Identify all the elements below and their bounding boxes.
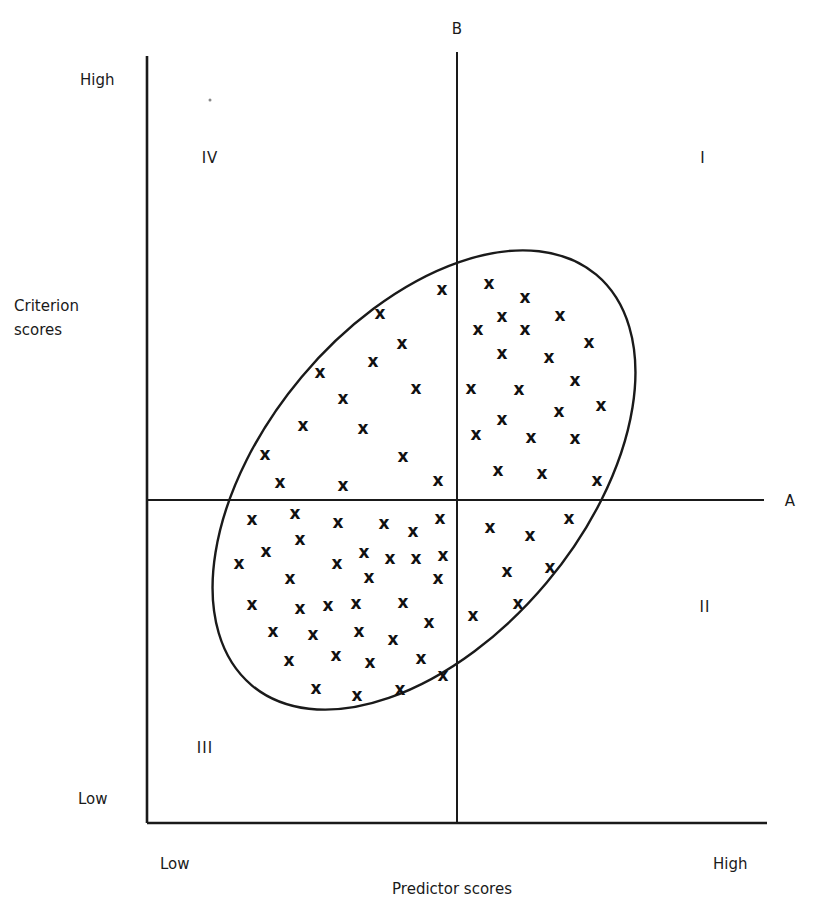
y-high-label: High: [80, 71, 114, 89]
data-point-quadrant-iv: x: [437, 279, 448, 299]
data-point-quadrant-i: x: [555, 305, 566, 325]
data-point-quadrant-i: x: [570, 370, 581, 390]
y-axis-title-line1: Criterion: [14, 297, 79, 315]
data-point-quadrant-iii: x: [285, 568, 296, 588]
data-point-quadrant-iii: x: [261, 541, 272, 561]
data-point-quadrant-iii: x: [395, 679, 406, 699]
data-point-quadrant-iii: x: [364, 567, 375, 587]
data-point-quadrant-i: x: [537, 463, 548, 483]
x-axis-title: Predictor scores: [392, 880, 512, 898]
data-point-quadrant-i: x: [570, 428, 581, 448]
data-points: xxxxxxxxxxxxxxxxxxxxxxxxxxxxxxxxxxxxxxxx…: [234, 273, 607, 705]
scatter-chart: B A High Low Criterion scores Low High P…: [0, 0, 814, 907]
data-point-quadrant-iii: x: [333, 512, 344, 532]
data-point-quadrant-iii: x: [332, 553, 343, 573]
data-point-quadrant-ii: x: [545, 557, 556, 577]
data-point-quadrant-iii: x: [268, 621, 279, 641]
data-point-quadrant-iii: x: [416, 648, 427, 668]
data-point-quadrant-iv: x: [298, 415, 309, 435]
quadrant-ii-label: II: [700, 598, 711, 616]
x-high-label: High: [713, 855, 747, 873]
stray-dot: [209, 99, 212, 102]
data-point-quadrant-iii: x: [290, 503, 301, 523]
data-point-quadrant-iv: x: [368, 351, 379, 371]
data-point-quadrant-iv: x: [338, 475, 349, 495]
data-point-quadrant-iii: x: [247, 594, 258, 614]
data-point-quadrant-iii: x: [323, 595, 334, 615]
data-point-quadrant-iii: x: [247, 509, 258, 529]
y-low-label: Low: [78, 790, 108, 808]
data-point-quadrant-iv: x: [397, 333, 408, 353]
data-point-quadrant-iv: x: [315, 362, 326, 382]
data-point-quadrant-iv: x: [433, 470, 444, 490]
data-point-quadrant-iv: x: [375, 303, 386, 323]
data-point-quadrant-i: x: [466, 378, 477, 398]
data-point-quadrant-iii: x: [354, 621, 365, 641]
data-point-quadrant-i: x: [497, 343, 508, 363]
data-point-quadrant-i: x: [526, 427, 537, 447]
data-point-quadrant-iii: x: [365, 652, 376, 672]
data-point-quadrant-ii: x: [564, 508, 575, 528]
data-point-quadrant-iii: x: [438, 545, 449, 565]
data-point-quadrant-i: x: [544, 347, 555, 367]
data-point-quadrant-ii: x: [502, 561, 513, 581]
data-point-quadrant-i: x: [473, 319, 484, 339]
data-point-quadrant-iii: x: [359, 542, 370, 562]
data-point-quadrant-i: x: [493, 460, 504, 480]
data-point-quadrant-iii: x: [284, 650, 295, 670]
data-point-quadrant-iv: x: [411, 378, 422, 398]
data-point-quadrant-iii: x: [398, 592, 409, 612]
data-point-quadrant-iii: x: [385, 548, 396, 568]
data-point-quadrant-iv: x: [275, 472, 286, 492]
data-point-quadrant-i: x: [497, 306, 508, 326]
data-point-quadrant-i: x: [520, 319, 531, 339]
data-point-quadrant-iii: x: [388, 629, 399, 649]
data-point-quadrant-iii: x: [308, 624, 319, 644]
data-point-quadrant-i: x: [471, 424, 482, 444]
data-point-quadrant-iii: x: [435, 508, 446, 528]
line-a-label: A: [785, 492, 796, 510]
data-point-quadrant-iv: x: [338, 388, 349, 408]
data-point-quadrant-iii: x: [352, 685, 363, 705]
data-point-quadrant-ii: x: [485, 517, 496, 537]
data-point-quadrant-iii: x: [311, 678, 322, 698]
y-axis-title-line2: scores: [14, 321, 62, 339]
data-point-quadrant-i: x: [592, 470, 603, 490]
quadrant-iii-label: III: [197, 739, 213, 757]
data-point-quadrant-i: x: [584, 332, 595, 352]
data-point-quadrant-iii: x: [424, 612, 435, 632]
data-point-quadrant-i: x: [497, 409, 508, 429]
data-point-quadrant-iv: x: [398, 446, 409, 466]
data-point-quadrant-i: x: [554, 401, 565, 421]
data-point-quadrant-iii: x: [408, 521, 419, 541]
data-point-quadrant-iii: x: [234, 553, 245, 573]
data-point-quadrant-i: x: [484, 273, 495, 293]
data-point-quadrant-iv: x: [260, 444, 271, 464]
data-point-quadrant-iii: x: [433, 568, 444, 588]
x-low-label: Low: [160, 855, 190, 873]
data-point-quadrant-ii: x: [468, 605, 479, 625]
data-point-quadrant-i: x: [520, 287, 531, 307]
data-point-quadrant-ii: x: [525, 525, 536, 545]
data-point-quadrant-iii: x: [351, 593, 362, 613]
data-point-quadrant-iii: x: [411, 548, 422, 568]
data-point-quadrant-iii: x: [331, 645, 342, 665]
data-point-quadrant-iii: x: [295, 598, 306, 618]
data-point-quadrant-iv: x: [358, 418, 369, 438]
quadrant-iv-label: IV: [202, 149, 219, 167]
data-point-quadrant-iii: x: [379, 513, 390, 533]
data-point-quadrant-ii: x: [513, 593, 524, 613]
data-point-quadrant-i: x: [596, 395, 607, 415]
quadrant-i-label: I: [700, 149, 705, 167]
data-point-quadrant-i: x: [514, 379, 525, 399]
data-point-quadrant-iii: x: [295, 529, 306, 549]
scatter-envelope-ellipse: [129, 172, 719, 788]
data-point-quadrant-iii: x: [438, 665, 449, 685]
line-b-label: B: [452, 20, 462, 38]
